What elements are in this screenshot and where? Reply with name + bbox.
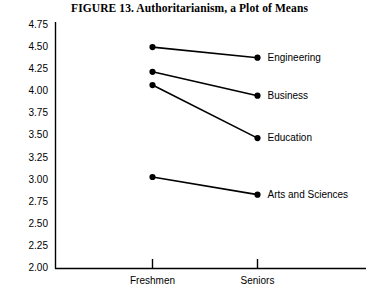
data-point-marker — [149, 69, 155, 75]
series-line — [153, 85, 258, 138]
plot-area — [0, 0, 379, 308]
y-tick-label: 2.50 — [18, 219, 48, 229]
y-tick-label: 2.25 — [18, 241, 48, 251]
data-point-marker — [254, 93, 260, 99]
series-label: Business — [268, 91, 309, 101]
series-label: Education — [268, 133, 312, 143]
data-series-group — [149, 44, 260, 198]
series-label: Arts and Sciences — [268, 190, 349, 200]
series-line — [153, 47, 258, 58]
figure-container: FIGURE 13. Authoritarianism, a Plot of M… — [0, 0, 379, 308]
data-point-marker — [254, 55, 260, 61]
data-point-marker — [254, 192, 260, 198]
y-tick-label: 4.25 — [18, 64, 48, 74]
y-tick-label: 2.75 — [18, 197, 48, 207]
y-tick-label: 3.00 — [18, 175, 48, 185]
y-tick-label: 3.50 — [18, 130, 48, 140]
series-line — [153, 177, 258, 195]
data-point-marker — [149, 82, 155, 88]
y-tick-label: 3.25 — [18, 153, 48, 163]
data-point-marker — [254, 135, 260, 141]
series-line — [153, 72, 258, 96]
y-tick-label: 3.75 — [18, 108, 48, 118]
data-point-marker — [149, 174, 155, 180]
y-tick-label: 4.50 — [18, 42, 48, 52]
y-tick-label: 4.75 — [18, 20, 48, 30]
y-tick-label: 2.00 — [18, 263, 48, 273]
x-tick-label: Seniors — [208, 276, 308, 286]
series-label: Engineering — [268, 53, 321, 63]
data-point-marker — [149, 44, 155, 50]
x-tick-label: Freshmen — [103, 276, 203, 286]
y-tick-label: 4.00 — [18, 86, 48, 96]
